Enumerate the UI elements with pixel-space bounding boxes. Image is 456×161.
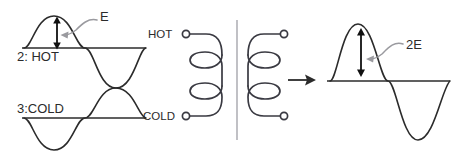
label-terminal-cold: COLD <box>143 110 175 122</box>
transformer-voltage-diagram: E 2: HOT 3:COLD HOT COLD <box>0 0 456 161</box>
label-terminal-hot: HOT <box>148 28 172 40</box>
pointer-2e <box>366 43 403 62</box>
terminal-hot[interactable] <box>182 30 189 37</box>
waveform-cold-sine <box>24 88 146 150</box>
terminal-cold[interactable] <box>182 112 189 119</box>
amplitude-arrow-2e <box>357 28 365 77</box>
amplitude-arrow-2e-head-up <box>357 28 365 36</box>
pointer-2e-arrowhead <box>366 55 374 62</box>
secondary-loop-1 <box>248 52 280 86</box>
amplitude-arrow-e <box>53 17 61 50</box>
transformer-secondary-coil <box>248 30 288 119</box>
terminal-secondary-top[interactable] <box>280 30 287 37</box>
label-2e: 2E <box>406 37 422 52</box>
waveform-output-group <box>327 24 450 140</box>
primary-loop-2 <box>190 83 222 116</box>
primary-loop-1 <box>190 52 222 86</box>
transformer-primary-coil: HOT COLD <box>143 28 222 122</box>
diagram-canvas: E 2: HOT 3:COLD HOT COLD <box>0 0 456 161</box>
label-e: E <box>100 9 109 24</box>
terminal-secondary-bottom[interactable] <box>280 112 287 119</box>
flow-right-arrow <box>288 75 316 86</box>
secondary-loop-2 <box>248 83 280 116</box>
pointer-e-arrowhead <box>61 31 69 38</box>
waveform-output-sine <box>330 24 450 140</box>
amplitude-arrow-2e-head-down <box>357 70 365 78</box>
label-wave-cold: 3:COLD <box>17 101 64 116</box>
label-wave-hot: 2: HOT <box>17 49 59 64</box>
waveform-cold-group <box>22 88 146 150</box>
